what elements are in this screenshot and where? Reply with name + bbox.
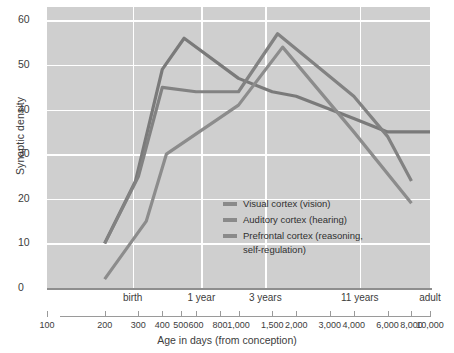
chart-legend: Visual cortex (vision) Auditory cortex (…	[223, 197, 363, 259]
x-tick-label: 100	[22, 320, 72, 330]
x-axis-line	[60, 316, 430, 317]
x-tick-mark	[47, 311, 48, 317]
era-label: 3 years	[225, 292, 305, 303]
x-tick-mark	[272, 311, 273, 317]
era-label: adult	[390, 292, 454, 303]
x-axis-title: Age in days (from conception)	[0, 334, 454, 346]
legend-label-visual-cortex: Visual cortex (vision)	[243, 197, 330, 211]
y-tick-label: 20	[18, 192, 42, 204]
y-tick-label: 0	[18, 281, 42, 293]
y-tick-label: 10	[18, 236, 42, 248]
x-tick-mark	[138, 311, 139, 317]
y-tick-label: 60	[18, 13, 42, 25]
x-tick-mark	[162, 311, 163, 317]
x-tick-mark	[105, 311, 106, 317]
x-tick-mark	[220, 311, 221, 317]
legend-item: Visual cortex (vision)	[223, 197, 363, 211]
y-axis-title: Synaptic density	[14, 66, 26, 206]
synaptic-density-chart: Synaptic density Visual cortex (vision) …	[0, 0, 454, 353]
legend-item: Prefrontal cortex (reasoning, self-regul…	[223, 229, 363, 256]
y-tick-label: 50	[18, 58, 42, 70]
x-tick-mark	[430, 311, 431, 317]
legend-swatch-prefrontal-cortex-icon	[223, 234, 237, 238]
y-tick-label: 30	[18, 147, 42, 159]
x-tick-mark	[239, 311, 240, 317]
x-tick-mark	[354, 311, 355, 317]
legend-label-auditory-cortex: Auditory cortex (hearing)	[243, 213, 347, 227]
era-label: 11 years	[320, 292, 400, 303]
x-tick-mark	[196, 311, 197, 317]
plot-baseline	[47, 288, 432, 290]
x-tick-mark	[388, 311, 389, 317]
legend-swatch-auditory-cortex-icon	[223, 218, 237, 222]
legend-swatch-visual-cortex-icon	[223, 202, 237, 206]
x-tick-mark	[330, 311, 331, 317]
x-tick-mark	[411, 311, 412, 317]
plot-area: Visual cortex (vision) Auditory cortex (…	[47, 7, 430, 288]
legend-item: Auditory cortex (hearing)	[223, 213, 363, 227]
x-tick-mark	[181, 311, 182, 317]
y-tick-label: 40	[18, 103, 42, 115]
legend-label-prefrontal-cortex: Prefrontal cortex (reasoning, self-regul…	[243, 229, 363, 256]
x-tick-label: 10,000	[405, 320, 454, 330]
x-tick-mark	[296, 311, 297, 317]
